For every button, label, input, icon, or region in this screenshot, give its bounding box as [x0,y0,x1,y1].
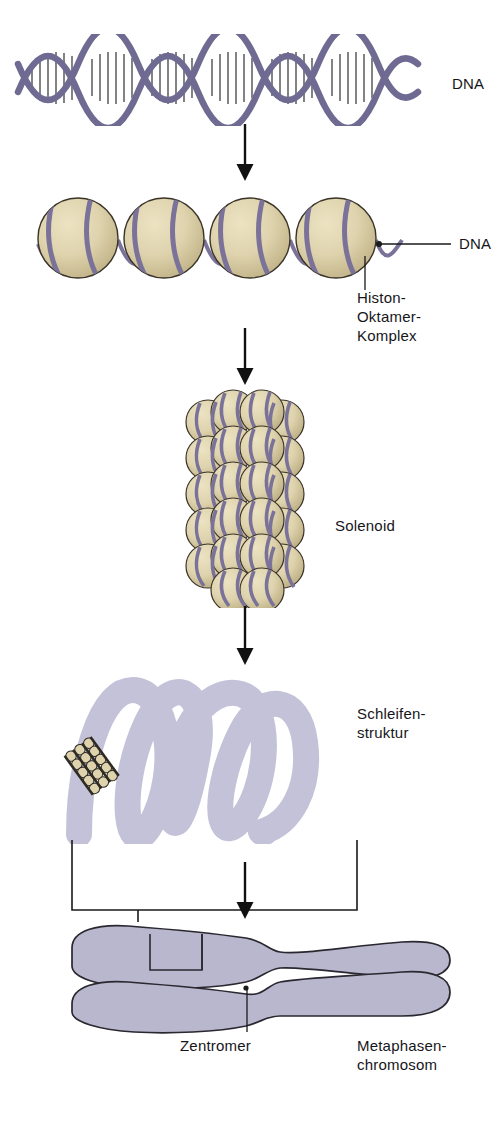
arrow-down-icon-3 [233,606,257,666]
leader-histone [358,256,372,290]
nucleosomes-graphic [30,188,410,298]
loop-structure-graphic [55,672,345,844]
label-dna-nucleosome: DNA [459,234,491,253]
dna-double-helix-graphic [0,34,440,126]
label-histone-octamer-complex: Histon- Oktamer- Komplex [357,288,421,345]
label-dna-helix: DNA [452,74,484,93]
dna-packaging-diagram: DNA [0,0,503,1133]
label-zentromer: Zentromer [180,1036,251,1055]
metaphase-chromosome-graphic [50,912,460,1040]
arrow-down-icon-1 [233,124,257,182]
label-metaphasenchromosom: Metaphasen- chromosom [357,1036,447,1074]
label-solenoid: Solenoid [335,516,395,535]
arrow-down-icon-2 [233,328,257,386]
bracket-loop-to-chromosome [60,840,380,922]
label-schleifenstruktur: Schleifen- struktur [357,704,426,742]
leader-dna-nucleosome [375,232,455,256]
solenoid-graphic [178,388,312,608]
leader-centromere [240,988,254,1032]
